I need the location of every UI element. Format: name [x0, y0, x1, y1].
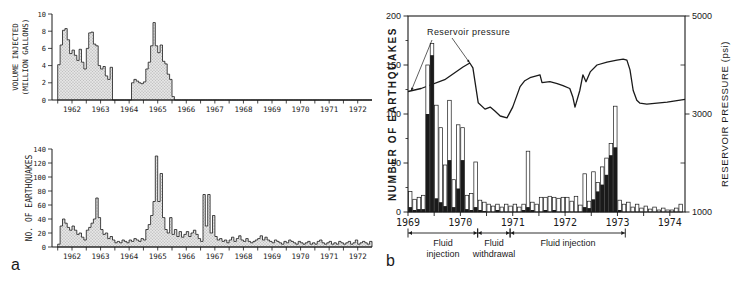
bracket-label-fluid-withdrawal: Fluid withdrawal [473, 238, 516, 259]
earthquake-bar-total [504, 204, 508, 212]
earthquake-bar-solid [448, 160, 452, 212]
y-tick-label: 0 [42, 97, 46, 105]
earthquake-bar-total [653, 207, 657, 212]
x-tick-label: 1962 [63, 105, 81, 114]
y-axis-label-volume-line1: VOLUME INJECTED [11, 23, 20, 91]
y-tick-label: 2 [42, 79, 46, 87]
earthquake-bar-total [661, 208, 665, 212]
x-tick-label: 1971 [320, 252, 338, 261]
earthquake-bar-solid [439, 202, 443, 212]
earthquake-bar-solid [609, 155, 613, 212]
earthquake-bar-total [644, 206, 648, 212]
earthquake-bar-total [539, 197, 543, 212]
earthquake-bar-total [535, 204, 539, 212]
earthquake-bar-solid [600, 185, 604, 212]
y-tick-label: 20 [38, 230, 46, 238]
y-tick-label: 4 [42, 62, 46, 70]
y-tick-label: 60 [38, 202, 46, 210]
x-tick-label: 1971 [501, 217, 525, 228]
earthquake-bar-solid [592, 199, 596, 212]
y-tick-label: 120 [33, 160, 46, 168]
earthquake-bar-total [622, 204, 626, 212]
annotation-arrow-line [452, 38, 470, 63]
earthquake-bar-total [443, 165, 447, 212]
y-tick-label-right: 3000 [692, 109, 712, 119]
y-tick-label: 8 [42, 28, 46, 36]
earthquake-bar-total [509, 206, 513, 212]
earthquake-bar-total [491, 206, 495, 212]
x-tick-label: 1966 [177, 252, 196, 261]
earthquake-bar-solid [443, 206, 447, 212]
y-tick-label-left: 200 [386, 11, 401, 21]
x-tick-label: 1972 [349, 252, 367, 261]
interval-bracket-arrowhead [474, 231, 477, 235]
earthquake-bar-total [570, 201, 574, 212]
x-tick-label: 1969 [263, 105, 281, 114]
earthquake-bar-total [435, 105, 439, 212]
y-axis-label-pressure: RESERVOIR PRESSURE (psi) [719, 41, 730, 187]
x-tick-label: 1972 [349, 105, 367, 114]
y-tick-label-right: 1000 [692, 207, 712, 217]
earthquake-bar-total [544, 197, 548, 212]
bracket-label-line: Fluid injection [540, 238, 595, 249]
earthquake-bar-solid [613, 147, 617, 212]
earthquake-bar-solid [583, 207, 587, 212]
panel-letter-b: b [386, 253, 395, 269]
chart-earthquakes-pressure-b: 0501001502001000300050001969197019711972… [386, 11, 712, 238]
earthquake-bar-total [513, 204, 517, 212]
earthquake-bar-total [517, 207, 521, 212]
y-axis-label-volume-line2: (MILLION GALLONS) [21, 19, 30, 96]
earthquake-bar-total [583, 174, 587, 212]
y-tick-label: 0 [42, 244, 46, 252]
x-tick-label: 1966 [177, 105, 196, 114]
y-tick-label: 40 [38, 216, 46, 224]
x-tick-label: 1964 [120, 105, 139, 114]
earthquake-bar-solid [408, 207, 412, 212]
x-tick-label: 1969 [396, 217, 420, 228]
chart-volume-injected: 0246810196219631964196519661967196819691… [38, 11, 372, 115]
y-tick-label: 6 [42, 45, 46, 53]
x-tick-label: 1970 [292, 252, 311, 261]
y-axis-label-earthquakes-a: NO. OF EARTHQUAKES [25, 155, 34, 242]
earthquake-bar-total [679, 204, 683, 212]
y-tick-label-left: 0 [396, 207, 401, 217]
bracket-label-line: injection [426, 249, 459, 260]
x-tick-label: 1965 [149, 105, 167, 114]
y-tick-label: 80 [38, 188, 46, 196]
earthquake-bar-solid [452, 207, 456, 212]
earthquake-bar-total [483, 202, 487, 212]
earthquake-bar-solid [526, 207, 530, 212]
earthquake-bar-total [640, 208, 644, 212]
y-tick-label: 10 [38, 11, 46, 19]
interval-bracket-arrowhead [506, 231, 509, 235]
x-tick-label: 1972 [553, 217, 577, 228]
x-tick-label: 1962 [63, 252, 81, 261]
x-tick-label: 1967 [206, 252, 224, 261]
earthquake-bar-solid [430, 55, 434, 212]
earthquake-bar-total [675, 208, 679, 212]
earthquake-bar-solid [434, 198, 438, 212]
earthquake-bar-solid [461, 160, 465, 212]
interval-bracket-arrowhead [409, 231, 412, 235]
x-tick-label: 1963 [92, 252, 110, 261]
interval-bracket-arrowhead [478, 231, 481, 235]
earthquake-bar-total [557, 198, 561, 212]
earthquake-bar-total [565, 197, 569, 212]
earthquake-bar-total [526, 151, 530, 212]
x-tick-label: 1969 [263, 252, 281, 261]
panel-letter-a: a [11, 257, 20, 273]
bracket-label-fluid-injection-1: Fluid injection [426, 238, 459, 259]
earthquake-bar-total [469, 193, 473, 212]
annotation-reservoir-pressure: Reservoir pressure [427, 27, 510, 37]
earthquake-bar-solid [605, 175, 609, 212]
x-tick-label: 1965 [149, 252, 167, 261]
y-tick-label: 140 [33, 146, 46, 154]
earthquake-bar-total [548, 196, 552, 212]
earthquake-bar-total [635, 204, 639, 212]
earthquake-bar-solid [426, 114, 430, 212]
x-tick-label: 1970 [292, 105, 311, 114]
earthquake-bar-total [500, 207, 504, 212]
x-tick-label: 1963 [92, 105, 110, 114]
y-axis-label-earthquakes-b: NUMBER OF EARTHQUAKES [387, 27, 398, 201]
bracket-label-fluid-injection-2: Fluid injection [540, 238, 595, 249]
